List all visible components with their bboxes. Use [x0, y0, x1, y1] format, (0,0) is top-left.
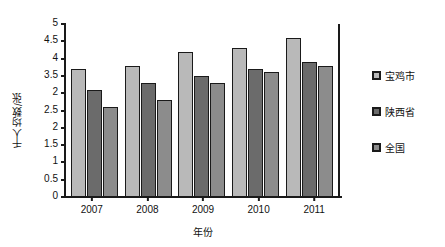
x-tick-mark — [313, 196, 315, 201]
x-axis-ticks: 20072008200920102011 — [64, 196, 342, 222]
y-tick-mark — [61, 144, 66, 146]
x-tick-label: 2011 — [303, 204, 325, 215]
bar — [248, 69, 263, 197]
bar — [194, 76, 209, 197]
x-tick-mark — [146, 196, 148, 201]
y-tick-mark — [61, 23, 66, 25]
bar — [157, 100, 172, 197]
y-tick-mark — [61, 58, 66, 60]
legend-label: 宝鸡市 — [385, 68, 415, 83]
y-tick-mark — [61, 110, 66, 112]
legend-item[interactable]: 全国 — [372, 140, 442, 155]
x-axis-title: 年份 — [64, 224, 342, 239]
y-tick-mark — [61, 92, 66, 94]
bar-groups — [68, 24, 336, 197]
bar — [178, 52, 193, 197]
bar-group — [286, 24, 333, 197]
y-tick-mark — [61, 179, 66, 181]
bar-group — [71, 24, 118, 197]
plot-area: 54.543.522.521.510.50 — [64, 24, 340, 197]
y-tick-label: 0 — [52, 190, 58, 202]
bar — [232, 48, 247, 197]
x-tick-label: 2008 — [136, 204, 158, 215]
legend-label: 全国 — [385, 140, 405, 155]
bar — [210, 83, 225, 197]
legend-item[interactable]: 陕西省 — [372, 104, 442, 119]
bar — [318, 66, 333, 197]
legend-swatch-icon — [372, 71, 381, 80]
y-tick-label: 5 — [52, 17, 58, 29]
bar — [286, 38, 301, 197]
bar — [125, 66, 140, 197]
y-tick-mark — [61, 127, 66, 129]
y-tick-label: 3.5 — [44, 69, 58, 81]
x-tick: 2009 — [192, 196, 214, 215]
chart-legend: 宝鸡市陕西省全国 — [372, 68, 442, 176]
x-tick: 2008 — [136, 196, 158, 215]
y-tick-mark — [61, 161, 66, 163]
y-axis-title: 千人均数/张 — [10, 60, 26, 180]
y-tick-label: 4 — [52, 52, 58, 64]
bar-group — [178, 24, 225, 197]
x-tick-mark — [202, 196, 204, 201]
bar — [87, 90, 102, 197]
x-tick: 2007 — [81, 196, 103, 215]
bar — [71, 69, 86, 197]
x-tick-label: 2007 — [81, 204, 103, 215]
x-tick-mark — [258, 196, 260, 201]
bar — [141, 83, 156, 197]
y-tick-mark — [61, 40, 66, 42]
x-tick-label: 2010 — [247, 204, 269, 215]
y-tick-label: 2 — [52, 86, 58, 98]
legend-label: 陕西省 — [385, 104, 415, 119]
bar — [264, 72, 279, 197]
bar-group — [125, 24, 172, 197]
legend-swatch-icon — [372, 107, 381, 116]
bar — [103, 107, 118, 197]
bar — [302, 62, 317, 197]
y-tick-label: 2.5 — [44, 104, 58, 116]
legend-item[interactable]: 宝鸡市 — [372, 68, 442, 83]
y-tick-label: 1.5 — [44, 138, 58, 150]
x-tick: 2011 — [303, 196, 325, 215]
y-tick-label: 0.5 — [44, 173, 58, 185]
bar-group — [232, 24, 279, 197]
x-tick-mark — [91, 196, 93, 201]
x-tick-label: 2009 — [192, 204, 214, 215]
bar-chart-figure: 千人均数/张 54.543.522.521.510.50 20072008200… — [0, 0, 445, 247]
legend-swatch-icon — [372, 143, 381, 152]
x-tick: 2010 — [247, 196, 269, 215]
y-tick-mark — [61, 75, 66, 77]
y-tick-label: 4.5 — [44, 34, 58, 46]
y-tick-label: 1 — [52, 155, 58, 167]
y-tick-label: 2 — [52, 121, 58, 133]
